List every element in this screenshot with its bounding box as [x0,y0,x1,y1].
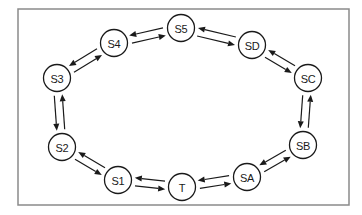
arrowhead-icon [198,27,206,33]
arrowhead-icon [60,94,66,101]
edge-line [205,30,236,37]
edge-sd-to-sc [265,57,292,73]
edge-sa-to-sb [264,157,291,172]
edge-sb-to-sc [307,95,313,128]
arrowhead-icon [228,41,236,47]
edge-sa-to-t [198,176,229,183]
edge-line [136,28,163,34]
node-label: T [179,182,186,194]
edge-s2-to-s1 [75,159,102,175]
state-node-sb: SB [290,132,317,159]
edge-sc-to-sb [298,95,304,128]
edge-line [84,156,105,168]
edge-s5-to-sd [197,36,235,46]
arrowhead-icon [78,152,86,158]
arrowhead-icon [53,124,59,131]
state-node-s2: S2 [49,134,76,161]
node-label: SA [240,172,255,184]
arrowhead-icon [284,67,292,73]
arrowhead-icon [69,60,77,66]
edge-s5-to-s4 [129,28,163,37]
edge-line [75,159,96,171]
arrowhead-icon [298,121,304,128]
arrowhead-icon [94,169,102,175]
arrowhead-icon [198,177,205,183]
state-node-sc: SC [295,65,322,92]
arrowhead-icon [268,50,276,56]
edge-sc-to-sd [268,50,295,66]
edge-s2-to-s3 [60,94,66,129]
edge-line [265,57,286,69]
node-label: S2 [56,142,69,154]
edge-line [142,179,165,182]
edge-sb-to-sa [259,150,286,165]
nodes-layer: S5SDSCSBSATS1S2S3S4 [44,15,322,201]
arrowhead-icon [158,34,166,40]
state-diagram: S5SDSCSBSATS1S2S3S4 [0,0,362,215]
edge-t-to-sa [200,182,231,189]
arrowhead-icon [307,95,313,102]
state-node-sd: SD [239,32,266,59]
edge-s3-to-s4 [74,55,102,72]
edge-line [135,186,158,189]
arrowhead-icon [95,55,103,61]
state-node-s3: S3 [44,65,71,92]
edge-s1-to-s2 [78,152,105,168]
edge-line [197,36,228,43]
edge-line [63,101,65,129]
arrowhead-icon [135,176,142,182]
state-node-s5: S5 [168,15,195,42]
node-label: S3 [51,73,64,85]
node-label: S5 [175,23,188,35]
node-label: S1 [112,175,125,187]
edge-line [308,102,310,128]
edge-s4-to-s3 [69,49,97,66]
state-node-s4: S4 [101,30,128,57]
node-label: SD [245,40,260,52]
state-node-sa: SA [234,164,261,191]
edge-line [205,176,230,180]
edge-t-to-s1 [135,176,165,182]
state-node-s1: S1 [105,167,132,194]
node-label: S4 [108,38,121,50]
edge-line [301,95,303,121]
edge-s3-to-s2 [53,96,59,131]
edge-s4-to-s5 [132,34,166,43]
node-label: SC [301,73,316,85]
edges-layer [53,27,313,192]
arrowhead-icon [158,185,165,191]
edge-line [265,150,285,162]
edge-line [264,160,284,172]
edge-line [54,96,56,124]
edge-s1-to-t [135,185,165,191]
arrowhead-icon [224,182,231,188]
node-label: SB [296,140,310,152]
edge-line [132,37,159,43]
edge-sd-to-s5 [198,27,236,37]
edge-line [200,185,225,189]
arrowhead-icon [129,31,137,37]
edge-line [274,54,295,66]
state-node-t: T [169,174,196,201]
